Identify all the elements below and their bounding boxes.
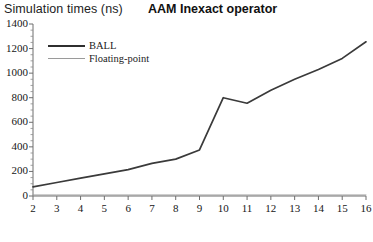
x-tick-label: 9 xyxy=(189,202,211,214)
x-tick-label: 3 xyxy=(46,202,68,214)
x-tick-label: 6 xyxy=(117,202,139,214)
x-tick-label: 14 xyxy=(307,202,329,214)
x-tick-label: 7 xyxy=(141,202,163,214)
y-tick-label: 600 xyxy=(0,115,28,127)
legend-item-floating-point: Floating-point xyxy=(48,53,149,64)
y-tick-label: 800 xyxy=(0,91,28,103)
y-tick-label: 1200 xyxy=(0,42,28,54)
y-tick-label: 0 xyxy=(0,189,28,201)
y-axis-ticks xyxy=(29,24,33,196)
x-axis-ticks xyxy=(33,196,366,200)
legend-label-floating-point: Floating-point xyxy=(89,53,149,64)
legend-line-floating-point-icon xyxy=(48,58,85,59)
x-tick-label: 8 xyxy=(165,202,187,214)
x-tick-label: 15 xyxy=(331,202,353,214)
legend-item-ball: BALL xyxy=(48,40,149,51)
chart-container: Simulation times (ns) AAM Inexact operat… xyxy=(0,0,373,242)
chart-legend: BALL Floating-point xyxy=(48,40,149,66)
y-tick-label: 400 xyxy=(0,140,28,152)
legend-label-ball: BALL xyxy=(89,40,116,51)
y-tick-label: 200 xyxy=(0,164,28,176)
x-tick-label: 5 xyxy=(93,202,115,214)
x-tick-label: 2 xyxy=(22,202,44,214)
x-tick-label: 4 xyxy=(70,202,92,214)
x-tick-label: 12 xyxy=(260,202,282,214)
y-tick-label: 1400 xyxy=(0,17,28,29)
x-tick-label: 11 xyxy=(236,202,258,214)
x-tick-label: 10 xyxy=(212,202,234,214)
legend-line-ball-icon xyxy=(48,45,85,47)
x-tick-label: 13 xyxy=(284,202,306,214)
x-tick-label: 16 xyxy=(355,202,373,214)
y-tick-label: 1000 xyxy=(0,66,28,78)
